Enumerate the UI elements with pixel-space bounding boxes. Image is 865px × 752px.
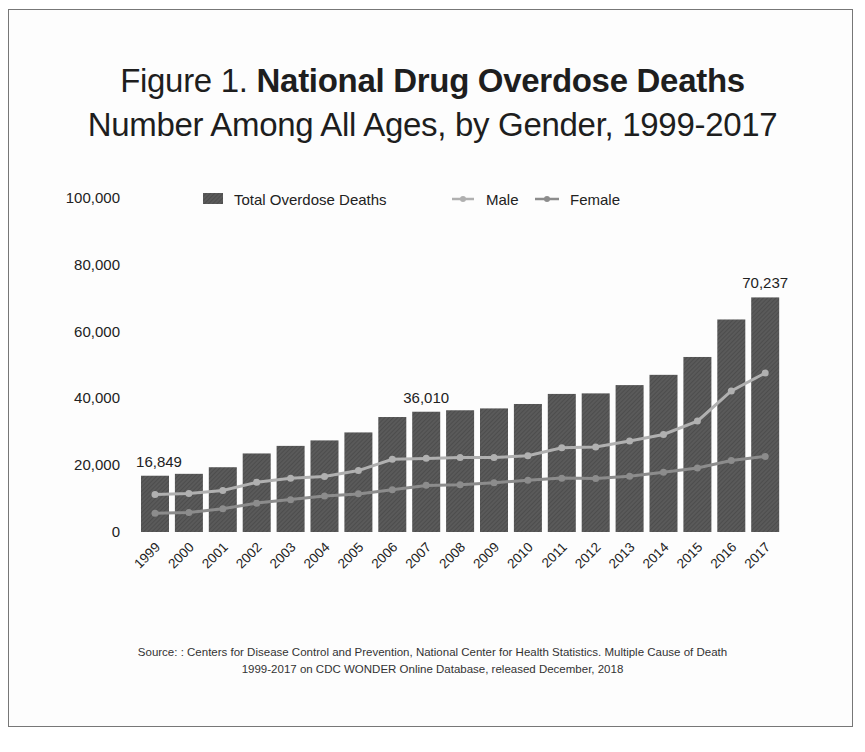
- x-tick-label: 2012: [572, 540, 604, 572]
- bar-total: [378, 417, 406, 532]
- marker-male: [185, 490, 192, 497]
- marker-male: [491, 454, 498, 461]
- x-axis-labels: 1999200020012002200320042005200620072008…: [131, 539, 773, 571]
- data-label: 36,010: [403, 389, 449, 406]
- y-tick-label: 100,000: [66, 189, 120, 206]
- marker-female: [728, 457, 735, 464]
- marker-male: [694, 418, 701, 425]
- bar-total: [548, 394, 576, 532]
- x-tick-label: 1999: [131, 540, 163, 572]
- x-tick-label: 2008: [436, 540, 468, 572]
- x-tick-label: 2006: [369, 540, 401, 572]
- marker-male: [423, 455, 430, 462]
- legend-label-female: Female: [570, 191, 620, 208]
- y-tick-label: 80,000: [74, 256, 120, 273]
- x-tick-label: 2001: [199, 540, 231, 572]
- marker-female: [457, 481, 464, 488]
- marker-female: [558, 475, 565, 482]
- x-tick-label: 2009: [470, 540, 502, 572]
- y-tick-label: 0: [112, 523, 120, 540]
- bar-total: [683, 357, 711, 532]
- legend: Total Overdose Deaths Male Female: [203, 191, 620, 208]
- x-tick-label: 2000: [165, 540, 197, 572]
- marker-male: [592, 443, 599, 450]
- marker-male: [152, 491, 159, 498]
- marker-female: [253, 500, 260, 507]
- marker-female: [592, 475, 599, 482]
- marker-female: [491, 479, 498, 486]
- x-tick-label: 2011: [539, 540, 570, 571]
- marker-male: [457, 454, 464, 461]
- bar-total: [175, 474, 203, 532]
- bar-line-chart: 020,00040,00060,00080,000100,000 16,8493…: [0, 0, 865, 752]
- x-tick-label: 2016: [708, 540, 740, 572]
- marker-female: [626, 473, 633, 480]
- bar-total: [141, 476, 169, 532]
- y-tick-label: 60,000: [74, 323, 120, 340]
- y-axis-labels: 020,00040,00060,00080,000100,000: [66, 189, 120, 540]
- marker-male: [253, 479, 260, 486]
- y-tick-label: 20,000: [74, 456, 120, 473]
- legend-label-male: Male: [486, 191, 519, 208]
- bar-total: [344, 432, 372, 532]
- marker-female: [355, 490, 362, 497]
- marker-male: [728, 387, 735, 394]
- x-tick-label: 2015: [674, 540, 706, 572]
- bar-total: [277, 446, 305, 532]
- x-tick-label: 2002: [233, 540, 265, 572]
- bar-total: [751, 297, 779, 532]
- x-tick-label: 2003: [267, 540, 299, 572]
- marker-male: [219, 487, 226, 494]
- marker-female: [152, 510, 159, 517]
- bar-total: [616, 385, 644, 532]
- marker-male: [524, 452, 531, 459]
- marker-male: [355, 467, 362, 474]
- x-tick-label: 2005: [335, 540, 367, 572]
- marker-female: [694, 464, 701, 471]
- x-tick-label: 2004: [301, 539, 333, 571]
- marker-male: [558, 444, 565, 451]
- legend-marker-female-icon: [544, 196, 550, 202]
- legend-marker-male-icon: [460, 196, 466, 202]
- source-line-2: 1999-2017 on CDC WONDER Online Database,…: [0, 660, 865, 678]
- bar-total: [412, 412, 440, 532]
- marker-female: [389, 486, 396, 493]
- marker-male: [389, 456, 396, 463]
- marker-female: [321, 493, 328, 500]
- legend-swatch-total: [203, 193, 223, 204]
- x-tick-label: 2007: [402, 540, 434, 572]
- data-label: 70,237: [742, 274, 788, 291]
- marker-female: [423, 482, 430, 489]
- bars-total: [141, 297, 779, 532]
- x-tick-label: 2017: [741, 540, 773, 572]
- marker-female: [524, 477, 531, 484]
- x-tick-label: 2014: [640, 539, 672, 571]
- marker-female: [287, 496, 294, 503]
- source-line-1: Source: : Centers for Disease Control an…: [0, 643, 865, 661]
- y-tick-label: 40,000: [74, 389, 120, 406]
- marker-female: [185, 509, 192, 516]
- bar-total: [717, 319, 745, 532]
- marker-male: [660, 431, 667, 438]
- marker-male: [321, 473, 328, 480]
- data-label: 16,849: [136, 453, 182, 470]
- bar-total: [650, 375, 678, 532]
- marker-male: [762, 370, 769, 377]
- bar-total: [209, 467, 237, 532]
- marker-female: [762, 453, 769, 460]
- bar-total: [480, 408, 508, 532]
- bar-total: [311, 440, 339, 532]
- bar-total: [514, 404, 542, 532]
- bar-total: [243, 453, 271, 532]
- marker-male: [287, 475, 294, 482]
- legend-label-total: Total Overdose Deaths: [234, 191, 387, 208]
- marker-male: [626, 437, 633, 444]
- x-tick-label: 2013: [606, 540, 638, 572]
- bar-total: [446, 410, 474, 532]
- marker-female: [219, 505, 226, 512]
- bar-total: [582, 393, 610, 532]
- marker-female: [660, 469, 667, 476]
- x-tick-label: 2010: [504, 540, 536, 572]
